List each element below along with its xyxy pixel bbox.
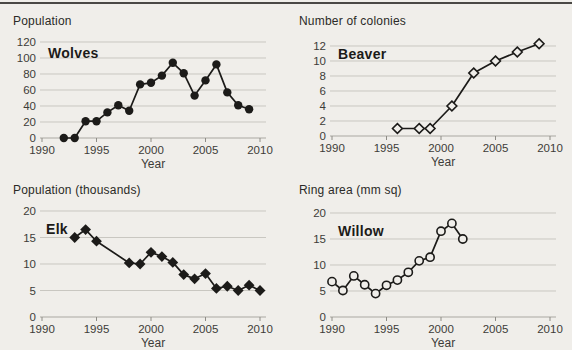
y-tick-labels: 024681012 [313, 40, 326, 142]
x-tick-label: 2005 [193, 144, 219, 156]
data-point [414, 124, 424, 134]
data-point [459, 235, 467, 243]
x-tick-label: 1995 [84, 323, 110, 335]
panel-willow: Ring area (mm sq) 0510152019901995200020… [286, 172, 572, 350]
x-tick-label: 2010 [247, 144, 273, 156]
x-tick-label: 1990 [29, 323, 55, 335]
y-tick-label: 20 [23, 116, 36, 128]
data-point [415, 257, 423, 265]
data-point [350, 272, 358, 280]
data-point [71, 134, 79, 142]
data-point [234, 101, 242, 109]
data-point [114, 101, 122, 109]
x-tick-label: 2010 [537, 323, 563, 335]
data-point [245, 105, 253, 113]
x-tick-labels: 19901995200020052010 [319, 323, 563, 335]
data-point [201, 76, 209, 84]
data-point [393, 276, 401, 284]
x-tick-labels: 19901995200020052010 [319, 142, 563, 154]
data-point [147, 79, 155, 87]
y-tick-labels: 05101520 [23, 205, 36, 323]
data-point [169, 59, 177, 67]
x-tick-label: 1990 [319, 142, 345, 154]
y-tick-labels: 020406080100120 [17, 36, 36, 144]
data-point [136, 80, 144, 88]
data-point [157, 251, 168, 262]
data-point [212, 60, 220, 68]
willow-chart: 0510152019901995200020052010YearWillow [286, 201, 572, 350]
y-tick-label: 2 [320, 115, 326, 127]
series-title: Elk [46, 221, 68, 237]
data-point [81, 117, 89, 125]
y-axis-title-willow: Ring area (mm sq) [286, 184, 572, 197]
y-tick-label: 10 [23, 258, 36, 270]
x-tick-label: 2010 [537, 142, 563, 154]
markers [60, 59, 254, 143]
data-point [92, 117, 100, 125]
data-point [534, 39, 544, 49]
y-tick-label: 8 [320, 70, 326, 82]
y-tick-label: 120 [17, 36, 36, 48]
x-tick-labels: 19901995200020052010 [29, 144, 273, 156]
x-tick-label: 2000 [138, 323, 164, 335]
data-point [189, 273, 200, 284]
x-tick-label: 2010 [247, 323, 273, 335]
beaver-chart: 02468101219901995200020052010YearBeaver [286, 32, 572, 172]
x-axis-title: Year [141, 157, 165, 171]
data-point [103, 108, 111, 116]
y-tick-label: 40 [23, 100, 36, 112]
data-point [124, 258, 135, 269]
data-point [382, 281, 390, 289]
data-point [255, 285, 266, 296]
x-tick-label: 2000 [428, 323, 454, 335]
y-tick-labels: 05101520 [313, 207, 326, 323]
data-point [180, 69, 188, 77]
panel-beaver: Number of colonies 024681012199019952000… [286, 6, 572, 172]
y-tick-label: 100 [17, 52, 36, 64]
y-tick-label: 6 [320, 85, 326, 97]
x-axis [40, 317, 266, 321]
x-tick-label: 1995 [374, 142, 400, 154]
series-title: Beaver [338, 46, 387, 62]
y-tick-label: 4 [320, 100, 327, 112]
x-axis-title: Year [431, 336, 455, 350]
y-tick-label: 5 [320, 285, 326, 297]
x-tick-label: 2005 [483, 142, 509, 154]
x-tick-labels: 19901995200020052010 [29, 323, 273, 335]
x-axis [330, 317, 556, 321]
y-tick-label: 0 [30, 311, 36, 323]
data-point [233, 285, 244, 296]
x-tick-label: 1990 [29, 144, 55, 156]
data-point [426, 253, 434, 261]
y-tick-label: 20 [313, 207, 326, 219]
y-axis-title-wolves: Population [0, 15, 286, 28]
y-tick-label: 10 [313, 55, 326, 67]
y-tick-label: 12 [313, 40, 326, 52]
y-tick-label: 0 [320, 130, 326, 142]
elk-chart: 0510152019901995200020052010YearElk [0, 201, 286, 350]
data-point [244, 280, 255, 291]
x-axis [330, 136, 556, 140]
x-tick-label: 2005 [483, 323, 509, 335]
wolves-chart: 02040608010012019901995200020052010YearW… [0, 32, 286, 172]
data-point [372, 290, 380, 298]
x-tick-label: 1995 [374, 323, 400, 335]
y-tick-label: 5 [30, 285, 36, 297]
x-axis-title: Year [431, 155, 455, 169]
x-axis-title: Year [141, 336, 165, 350]
y-axis-title-beaver: Number of colonies [286, 15, 572, 28]
panel-wolves: Population 02040608010012019901995200020… [0, 6, 286, 172]
data-line [75, 230, 260, 291]
y-tick-label: 0 [30, 132, 36, 144]
data-point [339, 286, 347, 294]
y-tick-label: 10 [313, 259, 326, 271]
y-tick-label: 20 [23, 205, 36, 217]
data-point [125, 107, 133, 115]
data-point [328, 278, 336, 286]
chart-grid: Population 02040608010012019901995200020… [0, 6, 572, 350]
markers [393, 39, 545, 134]
x-tick-label: 2000 [138, 144, 164, 156]
data-point [223, 88, 231, 96]
data-point [393, 124, 403, 134]
series-title: Willow [338, 223, 384, 239]
